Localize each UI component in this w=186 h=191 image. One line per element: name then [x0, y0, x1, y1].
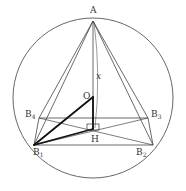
label-B3: B3 [151, 109, 162, 120]
label-A: A [89, 5, 97, 15]
label-B4: B4 [25, 109, 36, 120]
label-B2: B2 [136, 147, 147, 158]
label-B1: B1 [33, 147, 43, 158]
label-H: H [91, 134, 99, 144]
sphere-pyramid-diagram: A O H x B1 B2 B3 B4 [0, 0, 186, 191]
label-x: x [96, 71, 101, 81]
bold-segments [34, 97, 93, 145]
label-O: O [83, 91, 90, 101]
